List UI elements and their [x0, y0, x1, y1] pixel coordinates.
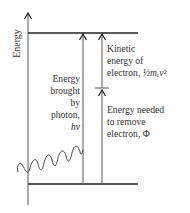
photon-energy-arrow [80, 34, 87, 184]
energy-diagram: Energy Energy brought by photon, hν Kine… [0, 0, 190, 213]
work-function-label: Energy needed to remove electron, Φ [107, 104, 164, 140]
kinetic-energy-arrow [99, 34, 106, 88]
photon-energy-label: Energy brought by photon, hν [36, 73, 80, 133]
photon-wave-icon [17, 146, 83, 172]
kinetic-energy-label: Kinetic energy of electron, ½mₑv² [107, 43, 166, 79]
work-function-arrow [99, 90, 106, 184]
energy-axis-label: Energy [0, 26, 34, 62]
